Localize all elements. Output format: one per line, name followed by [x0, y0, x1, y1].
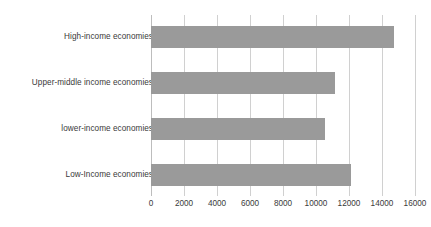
- bar-upper-middle-income: [151, 72, 335, 94]
- plot-area: [151, 15, 415, 196]
- gridline-16000: [415, 15, 416, 196]
- xtick-label-16000: 16000: [393, 199, 431, 209]
- category-label-high-income: High-income economies: [0, 32, 153, 42]
- category-label-low-income: Low-Income economies: [0, 170, 153, 180]
- bar-lower-income: [151, 118, 325, 140]
- bar-low-income: [151, 164, 351, 186]
- bar-high-income: [151, 26, 394, 48]
- category-label-upper-middle-income: Upper-middle income economies: [0, 78, 153, 88]
- category-label-lower-income: lower-income economies: [0, 124, 153, 134]
